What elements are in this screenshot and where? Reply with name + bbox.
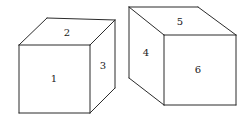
left-cube: 1 2 3 [19,18,115,113]
right-cube-label-4: 4 [143,47,149,58]
right-cube-label-5: 5 [177,16,183,27]
two-cubes-diagram: 1 2 3 6 5 4 [0,0,248,125]
left-cube-label-1: 1 [51,73,57,84]
left-cube-label-3: 3 [100,60,106,71]
left-cube-label-2: 2 [64,27,70,38]
figure-canvas: 1 2 3 6 5 4 [0,0,248,125]
right-cube-label-6: 6 [195,64,201,75]
